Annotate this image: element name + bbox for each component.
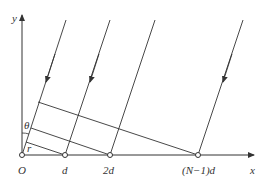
r-label: r: [27, 142, 32, 154]
ray-arrow-3: [223, 54, 232, 82]
ray-arrow-0: [46, 54, 55, 82]
origin-label: O: [18, 164, 26, 176]
theta-arc: [22, 133, 29, 134]
array-diagram: y x O d 2d (N−1)d θ r: [0, 0, 270, 182]
element-point-1: [63, 153, 68, 158]
incoming-ray-1: [65, 20, 110, 155]
perpendicular-0: [38, 102, 198, 155]
x-axis-label: x: [249, 164, 255, 176]
y-axis-label: y: [11, 12, 17, 24]
point-label-2d: 2d: [103, 164, 115, 176]
incoming-ray-3: [198, 20, 243, 155]
point-label-d: d: [62, 164, 68, 176]
perpendicular-2: [26, 142, 65, 155]
element-point-0: [20, 153, 25, 158]
ray-arrow-1: [90, 54, 99, 82]
incoming-ray-2: [110, 20, 155, 155]
theta-label: θ: [24, 119, 30, 131]
incoming-ray-0: [22, 20, 66, 155]
point-label-n1d: (N−1)d: [182, 164, 216, 177]
element-point-2: [108, 153, 113, 158]
element-point-3: [196, 153, 201, 158]
perpendicular-1: [31, 128, 110, 155]
